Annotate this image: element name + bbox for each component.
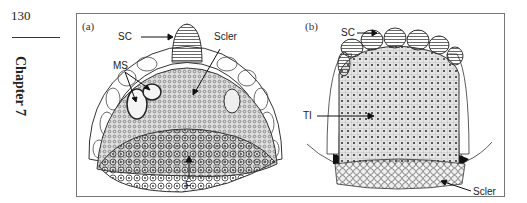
annotation-sc-b: SC (341, 27, 355, 38)
header-rule (12, 37, 60, 38)
chapter-label: Chapter 7 (12, 56, 28, 116)
annotation-ti: TI (303, 110, 312, 121)
panel-b-illustration (297, 14, 506, 198)
panel-b: (b) (297, 14, 506, 196)
panel-a: (a) (77, 14, 297, 196)
annotation-ms: MS (113, 60, 128, 71)
page-number: 130 (11, 8, 31, 24)
annotation-sc-a: SC (118, 31, 132, 42)
annotation-f: F (185, 180, 191, 191)
annotation-scler-a: Scler (214, 31, 237, 42)
figure-frame: (a) (76, 13, 505, 197)
panel-a-illustration (77, 14, 297, 198)
annotation-scler-b: Scler (473, 186, 496, 197)
